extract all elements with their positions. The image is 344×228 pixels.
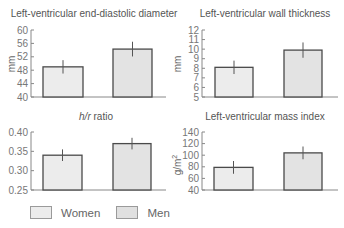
y-axis-label: mm [6, 56, 17, 73]
y-axis-label: g/m2 [171, 155, 183, 176]
panel-hr-ratio: h/r ratio 0.250.300.350.40 [9, 111, 166, 196]
chart-figure: Left-ventricular end-diastolic diameter … [0, 0, 344, 228]
y-tick-label: 7 [193, 72, 199, 83]
title-italic: h/r [79, 111, 91, 122]
y-tick-label: 120 [182, 138, 199, 149]
y-tick-label: 5 [193, 92, 199, 103]
panel-lv-diameter: Left-ventricular end-diastolic diameter … [6, 8, 178, 103]
y-tick-label: 60 [17, 25, 29, 36]
y-tick-label: 60 [188, 173, 200, 184]
y-tick-label: 40 [17, 92, 29, 103]
legend-label-women: Women [61, 207, 100, 219]
panel-title: Left-ventricular end-diastolic diameter [11, 8, 178, 19]
legend-label-men: Men [147, 207, 169, 219]
y-tick-label: 0.40 [9, 127, 29, 138]
y-tick-label: 10 [188, 44, 200, 55]
panel-lv-mass-index: Left-ventricular mass index g/m2 4060801… [171, 111, 338, 196]
y-tick-label: 140 [182, 127, 199, 138]
panel-title: Left-ventricular mass index [205, 111, 325, 122]
y-tick-label: 52 [17, 51, 29, 62]
y-tick-label: 40 [188, 185, 200, 196]
title-rest: ratio [91, 111, 114, 122]
y-tick-label: 48 [17, 65, 29, 76]
legend-item-women: Women [30, 206, 100, 219]
legend-swatch-men [116, 206, 138, 219]
y-tick-label: 100 [182, 150, 199, 161]
y-tick-label: 11 [189, 34, 200, 45]
legend-item-men: Men [116, 206, 169, 219]
y-tick-label: 8 [193, 63, 199, 74]
y-tick-label: 0.25 [9, 185, 29, 196]
y-axis-label: mm [172, 56, 183, 73]
y-tick-label: 80 [188, 161, 200, 172]
y-tick-label: 0.35 [9, 146, 29, 157]
legend: Women Men [30, 206, 186, 219]
panel-title: h/r ratio [79, 111, 113, 122]
y-tick-label: 44 [17, 78, 29, 89]
y-tick-label: 12 [188, 25, 200, 36]
y-tick-label: 56 [17, 38, 29, 49]
bar-men [113, 144, 151, 190]
y-tick-label: 0.30 [9, 165, 29, 176]
y-tick-label: 9 [193, 53, 199, 64]
y-tick-label: 6 [193, 82, 199, 93]
panel-title: Left-ventricular wall thickness [200, 8, 331, 19]
panel-lv-wall-thickness: Left-ventricular wall thickness mm 56789… [172, 8, 338, 103]
legend-swatch-women [30, 206, 52, 219]
